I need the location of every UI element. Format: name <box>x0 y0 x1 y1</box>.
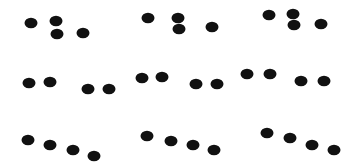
dot <box>172 13 185 23</box>
dot <box>241 69 254 79</box>
dot <box>103 84 116 94</box>
dot-pattern-figure <box>0 0 359 163</box>
dot <box>51 29 64 39</box>
dot <box>67 145 80 155</box>
dot <box>25 18 38 28</box>
dot <box>206 22 219 32</box>
dot <box>77 28 90 38</box>
dot <box>306 140 319 150</box>
dot <box>88 151 101 161</box>
dot <box>287 9 300 19</box>
dot <box>165 136 178 146</box>
dot <box>208 145 221 155</box>
dot <box>288 20 301 30</box>
dot <box>44 140 57 150</box>
dot <box>142 13 155 23</box>
dot <box>82 84 95 94</box>
dot <box>141 131 154 141</box>
dot <box>136 73 149 83</box>
dot <box>44 77 57 87</box>
dot <box>315 19 328 29</box>
dot <box>263 10 276 20</box>
dot <box>295 76 308 86</box>
dot <box>22 135 35 145</box>
dot <box>211 79 224 89</box>
dot <box>190 79 203 89</box>
dot <box>318 76 331 86</box>
dot <box>173 24 186 34</box>
dot <box>50 16 63 26</box>
dot <box>23 78 36 88</box>
dot <box>284 133 297 143</box>
dot <box>187 140 200 150</box>
dot <box>328 145 341 155</box>
dot <box>156 72 169 82</box>
dot <box>261 128 274 138</box>
dot <box>264 69 277 79</box>
